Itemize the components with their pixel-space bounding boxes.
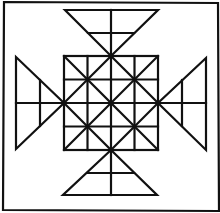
board-diagram <box>0 0 220 213</box>
right-triangle <box>158 58 206 150</box>
center-grid <box>64 56 158 150</box>
top-triangle <box>65 10 158 56</box>
bottom-triangle <box>63 150 157 195</box>
left-triangle <box>16 57 64 149</box>
